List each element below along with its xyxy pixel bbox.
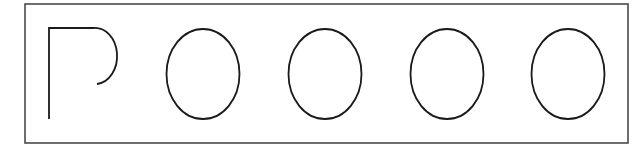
oval-2 <box>289 29 362 119</box>
oval-4 <box>532 29 605 119</box>
oval-3 <box>411 29 484 119</box>
shape-group <box>49 28 605 119</box>
oval-1 <box>167 29 240 119</box>
diagram-canvas <box>0 0 639 145</box>
p-shape <box>49 28 117 119</box>
diagram-frame <box>25 4 628 143</box>
